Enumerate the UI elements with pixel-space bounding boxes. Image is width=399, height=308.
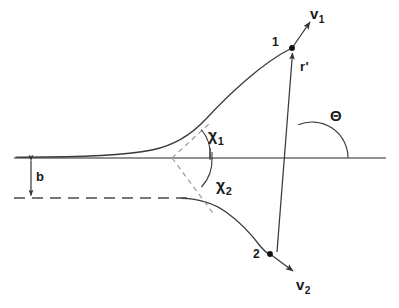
chi2-angle-arc bbox=[202, 158, 213, 187]
v2-velocity-vector bbox=[270, 254, 293, 271]
r-prime-label: r' bbox=[300, 60, 309, 73]
theta-angle-arc bbox=[298, 122, 348, 158]
dashed-asymptote-lower-right bbox=[172, 158, 213, 213]
point-2-label: 2 bbox=[253, 248, 260, 260]
point-1-dot bbox=[289, 45, 295, 51]
trajectory-curve-upper bbox=[16, 49, 291, 158]
chi2-label: χ2 bbox=[216, 178, 232, 197]
theta-label: Θ bbox=[330, 108, 342, 123]
dashed-asymptote-upper-right bbox=[172, 122, 211, 158]
r-prime-vector bbox=[277, 53, 293, 252]
v1-subscript: 1 bbox=[318, 14, 324, 25]
impact-parameter-label: b bbox=[36, 170, 44, 183]
chi2-symbol: χ bbox=[216, 177, 225, 194]
chi1-subscript: 1 bbox=[217, 135, 224, 147]
figure-caption bbox=[0, 300, 399, 308]
chi1-symbol: χ bbox=[208, 127, 217, 144]
v2-subscript: 2 bbox=[304, 285, 310, 296]
point-1-label: 1 bbox=[272, 36, 279, 48]
chi1-label: χ1 bbox=[208, 128, 224, 147]
trajectory-curve-lower bbox=[182, 198, 269, 254]
v2-label: v2 bbox=[296, 277, 311, 296]
v1-velocity-vector bbox=[292, 22, 310, 48]
v1-label: v1 bbox=[310, 6, 325, 25]
chi2-subscript: 2 bbox=[225, 185, 232, 197]
figure-root: v1 v2 1 2 r' b Θ χ1 χ2 bbox=[0, 0, 399, 308]
point-2-dot bbox=[267, 251, 273, 257]
scattering-diagram-svg bbox=[0, 0, 399, 308]
